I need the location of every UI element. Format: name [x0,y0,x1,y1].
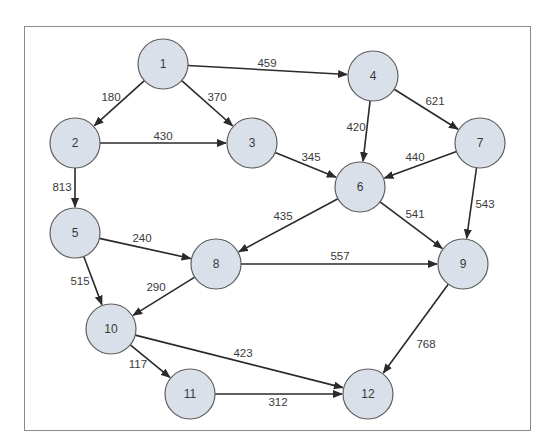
edge-weight-label: 423 [233,347,252,359]
edge-1-to-2 [94,81,144,126]
edge-weight-label: 541 [405,208,424,220]
node-11: 11 [165,369,215,419]
edge-9-to-12 [383,284,448,373]
edge-weight-label: 768 [416,338,435,350]
graph-diagram: 4591803704308133454206214405434355412405… [0,0,548,444]
node-label: 11 [184,387,197,401]
edge-weight-label: 345 [301,151,320,163]
arrow-icon [383,284,448,373]
edge-1-to-3 [182,81,233,126]
node-label: 10 [104,322,118,336]
edge-weight-label: 621 [425,95,444,107]
edge-weight-label: 440 [405,151,424,163]
node-3: 3 [227,118,277,168]
node-6: 6 [335,162,385,212]
node-1: 1 [138,39,188,89]
edge-weight-label: 557 [330,250,349,262]
node-label: 3 [249,136,256,150]
edge-weight-label: 290 [146,281,165,293]
node-label: 1 [160,57,167,71]
node-label: 6 [357,180,364,194]
arrow-icon [182,81,233,126]
edge-weight-label: 435 [273,210,292,222]
arrow-icon [94,81,144,126]
edge-weight-label: 312 [268,396,287,408]
arrow-icon [239,199,338,252]
edge-weight-label: 430 [153,130,172,142]
edge-weight-label: 180 [101,91,120,103]
edge-weight-label: 240 [132,232,151,244]
graph-canvas: 4591803704308133454206214405434355412405… [0,0,548,444]
edge-weight-label: 370 [207,91,226,103]
node-10: 10 [86,304,136,354]
node-label: 8 [213,257,220,271]
node-12: 12 [343,369,393,419]
edge-weight-label: 117 [129,358,147,370]
node-label: 12 [361,387,375,401]
edge-6-to-8 [239,199,338,252]
node-label: 2 [72,136,79,150]
node-label: 4 [370,69,377,83]
node-5: 5 [50,208,100,258]
node-7: 7 [455,118,505,168]
edge-10-to-12 [135,335,343,387]
node-label: 5 [72,226,79,240]
edge-weight-label: 420 [346,121,365,133]
edge-weight-label: 459 [257,57,276,69]
node-8: 8 [191,239,241,289]
edge-weight-label: 515 [70,275,89,287]
node-9: 9 [438,239,488,289]
node-label: 9 [460,257,467,271]
node-label: 7 [477,136,484,150]
node-2: 2 [50,118,100,168]
edge-weight-label: 813 [52,181,71,193]
edge-weight-label: 543 [475,198,494,210]
arrow-icon [135,335,343,387]
node-4: 4 [348,51,398,101]
